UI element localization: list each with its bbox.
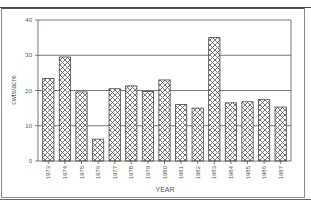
bar-1983 <box>209 38 220 161</box>
bar-1982 <box>192 108 203 161</box>
x-tick-label: 1975 <box>79 165 85 179</box>
x-tick-label: 1987 <box>278 165 284 179</box>
bars <box>43 38 287 161</box>
x-tick-label: 1980 <box>162 165 168 179</box>
bar-chart: 0102030401973197419751976197719781979198… <box>0 0 311 210</box>
y-tick-label: 30 <box>25 52 32 58</box>
y-tick-label: 10 <box>25 123 32 129</box>
x-tick-label: 1981 <box>178 165 184 179</box>
x-tick-label: 1982 <box>195 165 201 179</box>
bar-1977 <box>109 89 120 161</box>
bar-1984 <box>225 103 236 161</box>
bar-1978 <box>126 86 137 161</box>
x-tick-label: 1983 <box>211 165 217 179</box>
bar-1974 <box>59 57 70 161</box>
x-tick-label: 1977 <box>112 165 118 179</box>
x-tick-label: 1986 <box>261 165 267 179</box>
y-axis-title: cwts/acre <box>10 75 17 105</box>
y-tick-label: 0 <box>29 158 33 164</box>
y-tick-label: 20 <box>25 88 32 94</box>
x-tick-label: 1979 <box>145 165 151 179</box>
x-tick-label: 1984 <box>228 165 234 179</box>
x-tick-label: 1978 <box>128 165 134 179</box>
x-tick-label: 1973 <box>45 165 51 179</box>
bar-1976 <box>92 139 103 161</box>
x-tick-label: 1985 <box>245 165 251 179</box>
x-tick-label: 1976 <box>95 165 101 179</box>
bar-1973 <box>43 79 54 161</box>
bar-1975 <box>76 92 87 161</box>
bar-1981 <box>175 105 186 161</box>
bar-1979 <box>142 92 153 161</box>
bar-1986 <box>258 100 269 161</box>
bar-1987 <box>275 107 286 161</box>
bar-1980 <box>159 80 170 161</box>
x-axis-title: YEAR <box>155 186 174 193</box>
bar-1985 <box>242 102 253 161</box>
x-tick-label: 1974 <box>62 165 68 179</box>
y-tick-label: 40 <box>25 17 32 23</box>
